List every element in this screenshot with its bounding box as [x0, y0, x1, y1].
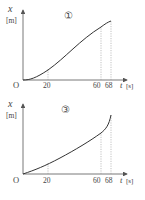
- y-var-label: x: [7, 98, 13, 109]
- tick-68: 68: [105, 176, 113, 185]
- chart-title: ③: [61, 104, 70, 115]
- tick-20: 20: [43, 176, 51, 185]
- chart-1: x [m] ① O 20 60 68 t [s]: [6, 3, 133, 90]
- y-unit-label: [m]: [6, 16, 17, 25]
- tick-60: 60: [93, 176, 101, 185]
- chart-title: ①: [64, 10, 73, 21]
- x-unit-label: [s]: [126, 177, 133, 185]
- chart-3: x [m] ③ O 20 60 68 t [s]: [6, 98, 133, 185]
- x-var-label: t: [120, 175, 123, 185]
- origin-label: O: [13, 175, 19, 185]
- x-unit-label: [s]: [126, 82, 133, 90]
- origin-label: O: [13, 80, 19, 90]
- y-var-label: x: [7, 3, 13, 14]
- tick-60: 60: [93, 81, 101, 90]
- curve: [23, 21, 111, 80]
- y-unit-label: [m]: [6, 111, 17, 120]
- curve: [23, 115, 111, 174]
- charts-canvas: x [m] ① O 20 60 68 t [s] x [m] ③ O 20 60…: [0, 0, 145, 200]
- x-var-label: t: [120, 80, 123, 90]
- tick-20: 20: [43, 81, 51, 90]
- tick-68: 68: [105, 81, 113, 90]
